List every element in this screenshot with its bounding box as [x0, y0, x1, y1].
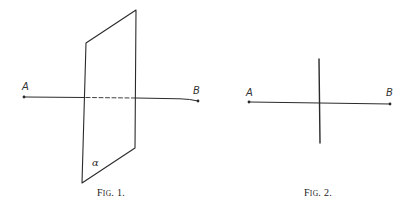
point-b-dot	[389, 103, 392, 106]
segment-ab-rear-part	[136, 98, 198, 101]
figure-canvas: A B α FIG. 1. A B FIG. 2.	[0, 0, 412, 207]
plane-trace-line	[319, 59, 320, 143]
segment-ab-front-part	[24, 97, 85, 98]
segment-ab-hidden-part	[86, 98, 135, 99]
caption-suffix: . 1.	[111, 187, 125, 198]
plane-alpha-label: α	[92, 157, 99, 168]
point-b-label: B	[386, 87, 393, 98]
caption-smallcaps: IG	[103, 189, 112, 198]
figure-1: A B α FIG. 1.	[21, 10, 200, 198]
plane-alpha	[82, 10, 136, 183]
point-a-label: A	[21, 81, 29, 92]
point-a-label: A	[245, 87, 253, 98]
figure-2-caption: FIG. 2.	[304, 187, 332, 198]
figure-1-caption: FIG. 1.	[97, 187, 125, 198]
point-b-label: B	[193, 85, 200, 96]
point-b-dot	[197, 100, 200, 103]
point-a-dot	[248, 101, 251, 104]
point-a-dot	[23, 96, 26, 99]
caption-suffix: . 2.	[318, 187, 332, 198]
figure-2: A B FIG. 2.	[245, 59, 393, 198]
caption-smallcaps: IG	[310, 189, 319, 198]
